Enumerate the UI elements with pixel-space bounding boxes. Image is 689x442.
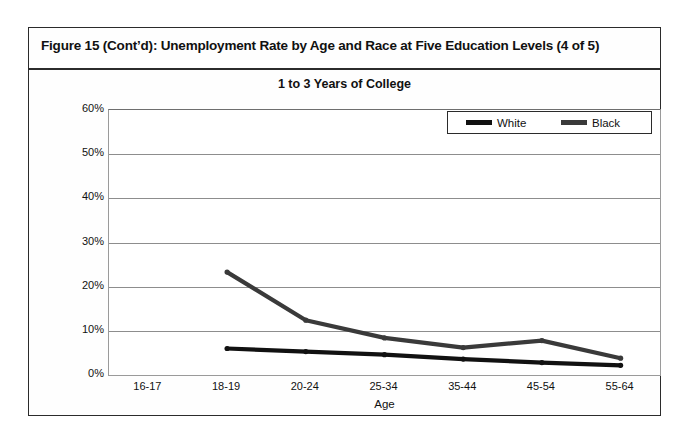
x-axis-tick-label: 20-24 [291, 380, 319, 392]
x-axis-tick-label: 45-54 [527, 380, 555, 392]
x-axis-tick-label: 16-17 [133, 380, 161, 392]
chart-legend: White Black [447, 111, 652, 134]
plot-area [108, 109, 661, 376]
x-axis-tick-label: 18-19 [212, 380, 240, 392]
data-point-white [618, 363, 623, 368]
data-point-white [303, 349, 308, 354]
data-point-white [225, 346, 230, 351]
legend-entry-white[interactable]: White [466, 115, 526, 130]
legend-swatch-black-icon [561, 120, 587, 125]
figure-title: Figure 15 (Cont’d): Unemployment Rate by… [41, 38, 653, 53]
x-axis-tick-label: 35-44 [448, 380, 476, 392]
x-axis-tick-label: 25-34 [369, 380, 397, 392]
title-divider [29, 68, 660, 70]
y-axis-tick-label: 0% [58, 367, 104, 379]
data-point-black [618, 356, 623, 361]
y-axis-tick-labels: 60%50%40%30%20%10%0% [54, 109, 104, 376]
y-axis-tick-label: 10% [58, 323, 104, 335]
data-point-black [225, 270, 230, 275]
legend-swatch-white-icon [466, 120, 492, 125]
legend-entry-black[interactable]: Black [561, 115, 620, 130]
y-axis-tick-label: 60% [58, 102, 104, 114]
legend-label-black: Black [592, 117, 620, 129]
legend-label-white: White [497, 117, 526, 129]
series-line-white [227, 349, 620, 366]
data-point-white [539, 360, 544, 365]
y-axis-tick-label: 50% [58, 146, 104, 158]
y-axis-tick-label: 20% [58, 279, 104, 291]
figure-container: Figure 15 (Cont’d): Unemployment Rate by… [28, 27, 661, 416]
data-point-black [303, 318, 308, 323]
series-lines [109, 110, 660, 375]
series-line-black [227, 272, 620, 358]
x-axis-tick-label: 55-64 [606, 380, 634, 392]
data-point-white [461, 357, 466, 362]
y-axis-tick-label: 40% [58, 190, 104, 202]
x-axis-tick-labels: 16-1718-1920-2425-3435-4445-5455-64 [108, 380, 661, 396]
x-axis-title: Age [108, 398, 661, 410]
data-point-white [382, 352, 387, 357]
data-point-black [461, 345, 466, 350]
y-axis-tick-label: 30% [58, 235, 104, 247]
data-point-black [539, 338, 544, 343]
chart-subtitle: 1 to 3 Years of College [29, 77, 660, 91]
data-point-black [382, 335, 387, 340]
